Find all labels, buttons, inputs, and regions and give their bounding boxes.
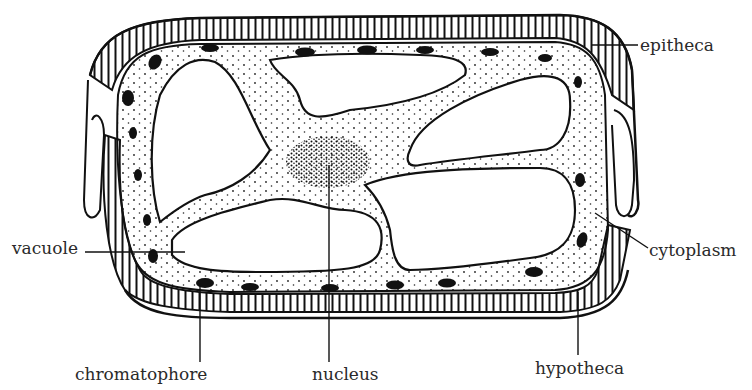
label-chromatophore: chromatophore [75, 366, 207, 383]
girdle-left [84, 80, 104, 217]
label-epitheca: epitheca [640, 37, 714, 54]
nucleus [286, 136, 370, 188]
diatom-diagram [0, 0, 752, 390]
label-hypotheca: hypotheca [535, 360, 624, 377]
girdle-right [612, 110, 634, 216]
label-nucleus: nucleus [312, 366, 379, 383]
label-cytoplasm: cytoplasm [649, 242, 737, 259]
label-vacuole: vacuole [12, 240, 78, 257]
